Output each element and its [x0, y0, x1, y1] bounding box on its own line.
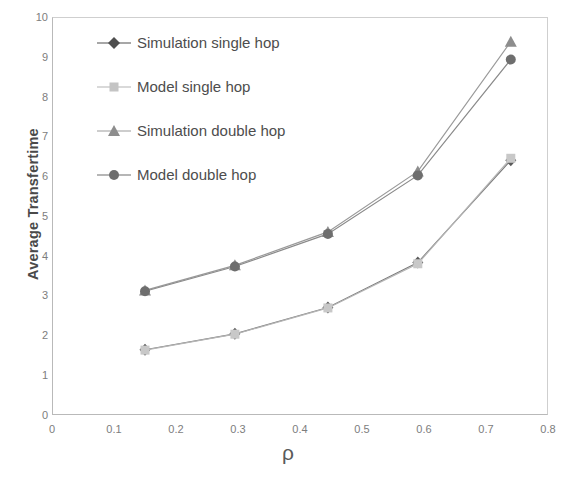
x-tick-label: 0.1 — [94, 424, 134, 435]
legend-label: Model single hop — [137, 78, 250, 96]
y-axis-title: Average Transfertime — [25, 104, 41, 304]
x-tick-label: 0.7 — [466, 424, 506, 435]
y-tick-label: 10 — [6, 12, 48, 23]
x-axis-title: ρ — [0, 442, 576, 463]
diamond-marker-icon — [95, 30, 133, 56]
triangle-marker-icon — [95, 118, 133, 144]
legend-item-model-single-hop: Model single hop — [95, 74, 335, 118]
x-tick-label: 0.3 — [218, 424, 258, 435]
legend-label: Simulation single hop — [137, 34, 280, 52]
x-tick-label: 0.8 — [528, 424, 568, 435]
x-tick-label: 0.5 — [342, 424, 382, 435]
legend-item-simulation-single-hop: Simulation single hop — [95, 30, 335, 74]
y-tick-label: 1 — [6, 370, 48, 381]
x-tick-label: 0.6 — [404, 424, 444, 435]
x-tick-label: 0.2 — [156, 424, 196, 435]
legend-label: Simulation double hop — [137, 122, 285, 140]
square-marker-icon — [95, 74, 133, 100]
circle-marker-icon — [95, 162, 133, 188]
y-tick-label: 9 — [6, 52, 48, 63]
legend-item-model-double-hop: Model double hop — [95, 162, 335, 206]
chart-legend: Simulation single hop Model single hop S… — [95, 30, 335, 206]
x-tick-label: 0.4 — [280, 424, 320, 435]
chart-container: 10 9 8 7 6 5 4 3 2 1 0 0 0.1 0.2 0.3 0.4… — [0, 0, 576, 480]
legend-item-simulation-double-hop: Simulation double hop — [95, 118, 335, 162]
legend-label: Model double hop — [137, 166, 256, 184]
y-tick-label: 0 — [6, 410, 48, 421]
y-tick-label: 8 — [6, 92, 48, 103]
y-tick-label: 2 — [6, 330, 48, 341]
x-tick-label: 0 — [32, 424, 72, 435]
